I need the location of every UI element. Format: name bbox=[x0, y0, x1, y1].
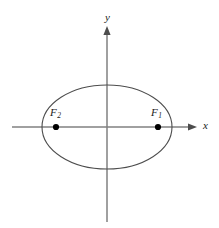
y-axis-arrowhead bbox=[103, 26, 110, 35]
x-axis-label: x bbox=[203, 120, 208, 131]
focus-point-f2 bbox=[53, 124, 59, 130]
x-axis-arrowhead bbox=[188, 123, 197, 130]
focus-label-f2-subscript: 2 bbox=[57, 111, 61, 120]
y-axis-label: y bbox=[105, 12, 110, 23]
focus-label-f1: F1 bbox=[151, 107, 161, 118]
ellipse-figure: y x F2 F1 bbox=[0, 0, 219, 228]
focus-point-f1 bbox=[155, 124, 161, 130]
figure-canvas bbox=[0, 0, 219, 228]
focus-label-f2: F2 bbox=[50, 107, 60, 118]
focus-label-f1-letter: F bbox=[151, 106, 158, 118]
focus-label-f2-letter: F bbox=[50, 106, 57, 118]
focus-label-f1-subscript: 1 bbox=[158, 111, 162, 120]
